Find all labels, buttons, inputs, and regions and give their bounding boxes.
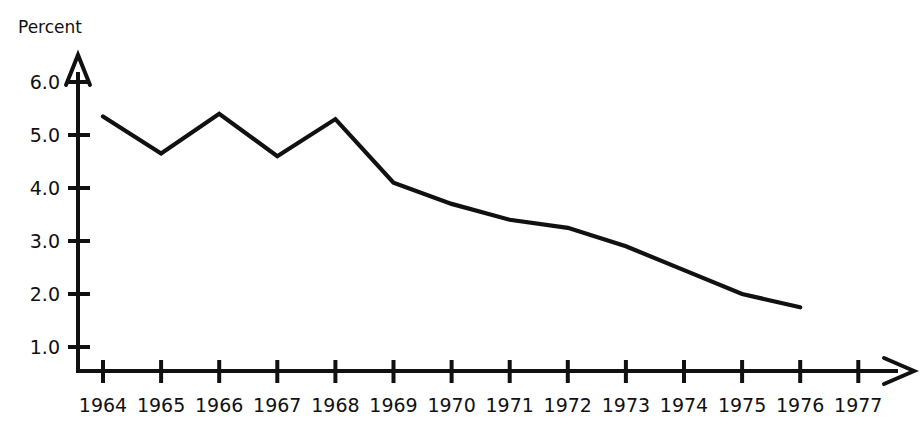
y-tick-label: 6.0 — [30, 71, 60, 93]
x-tick-group: 1964196519661967196819691970197119721973… — [79, 360, 883, 416]
x-tick-label: 1965 — [137, 394, 185, 416]
y-tick-label: 2.0 — [30, 283, 60, 305]
y-tick-group: 6.05.04.03.02.01.0 — [30, 71, 90, 358]
y-tick-label: 3.0 — [30, 230, 60, 252]
x-tick-label: 1974 — [660, 394, 708, 416]
x-tick-label: 1967 — [253, 394, 301, 416]
y-tick-label: 1.0 — [30, 336, 60, 358]
x-tick-label: 1973 — [602, 394, 650, 416]
chart-container: Percent 6.05.04.03.02.01.0 1964196519661… — [0, 0, 921, 441]
x-tick-label: 1976 — [776, 394, 824, 416]
x-tick-label: 1972 — [544, 394, 592, 416]
line-chart: Percent 6.05.04.03.02.01.0 1964196519661… — [0, 0, 921, 441]
x-tick-label: 1977 — [834, 394, 882, 416]
x-tick-label: 1971 — [486, 394, 534, 416]
x-tick-label: 1964 — [79, 394, 127, 416]
x-tick-label: 1968 — [311, 394, 359, 416]
x-tick-label: 1970 — [427, 394, 475, 416]
y-tick-label: 4.0 — [30, 177, 60, 199]
x-tick-label: 1966 — [195, 394, 243, 416]
x-tick-label: 1975 — [718, 394, 766, 416]
x-tick-label: 1969 — [369, 394, 417, 416]
data-series-line — [103, 114, 800, 307]
y-tick-label: 5.0 — [30, 124, 60, 146]
y-axis-title: Percent — [18, 17, 82, 37]
